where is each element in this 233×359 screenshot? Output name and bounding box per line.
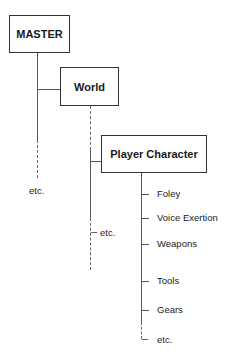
node-master: MASTER <box>9 15 70 53</box>
world-etc-tick <box>91 232 97 233</box>
node-player-character-label: Player Character <box>110 148 197 160</box>
world-trunk-dashed-top <box>90 106 91 150</box>
connector-world-player <box>90 161 101 162</box>
tick-voice-exertion <box>141 218 149 219</box>
world-trunk-dashed-bottom <box>90 218 91 270</box>
child-tools: Tools <box>157 276 179 286</box>
master-etc-label: etc. <box>29 186 44 196</box>
world-etc-label: etc. <box>100 228 115 238</box>
node-player-character: Player Character <box>101 135 207 173</box>
child-voice-exertion: Voice Exertion <box>157 213 218 223</box>
player-trunk-solid <box>141 173 142 322</box>
player-trunk-dashed <box>141 322 142 339</box>
tick-player-etc <box>142 339 148 340</box>
child-weapons: Weapons <box>157 239 197 249</box>
node-world-label: World <box>74 81 105 93</box>
tick-tools <box>141 281 149 282</box>
tick-weapons <box>141 244 149 245</box>
child-gears: Gears <box>157 305 183 315</box>
master-trunk-dashed <box>37 140 38 178</box>
connector-master-world <box>37 89 60 90</box>
tick-foley <box>141 194 149 195</box>
node-world: World <box>60 67 119 106</box>
master-trunk-solid <box>37 53 38 140</box>
tick-gears <box>141 310 149 311</box>
child-foley: Foley <box>157 189 180 199</box>
player-etc-label: etc. <box>157 335 172 345</box>
node-master-label: MASTER <box>16 28 62 40</box>
